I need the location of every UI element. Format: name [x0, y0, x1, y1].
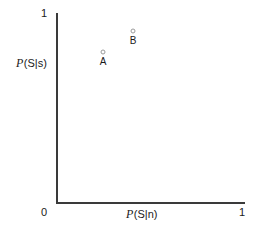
x-axis-line [56, 202, 245, 204]
origin-tick-label: 0 [41, 207, 47, 218]
data-point-label-b: B [130, 36, 137, 46]
data-point-marker-b [131, 29, 136, 34]
y-axis-title-variable: P [16, 56, 24, 70]
x-axis-tick-label-right: 1 [239, 207, 245, 218]
y-axis-title: P(S|s) [16, 57, 47, 69]
data-point-label-a: A [100, 57, 107, 67]
x-axis-title: P(S|n) [126, 208, 157, 220]
scatter-plot-figure: 1 0 1 P(S|s) P(S|n) AB [0, 0, 258, 231]
y-axis-tick-label-top: 1 [41, 8, 47, 19]
data-point-marker-a [101, 49, 106, 54]
x-axis-title-argument: (S|n) [134, 208, 158, 220]
y-axis-title-argument: (S|s) [24, 57, 47, 69]
y-axis-line [56, 13, 58, 204]
x-axis-title-variable: P [126, 207, 134, 221]
